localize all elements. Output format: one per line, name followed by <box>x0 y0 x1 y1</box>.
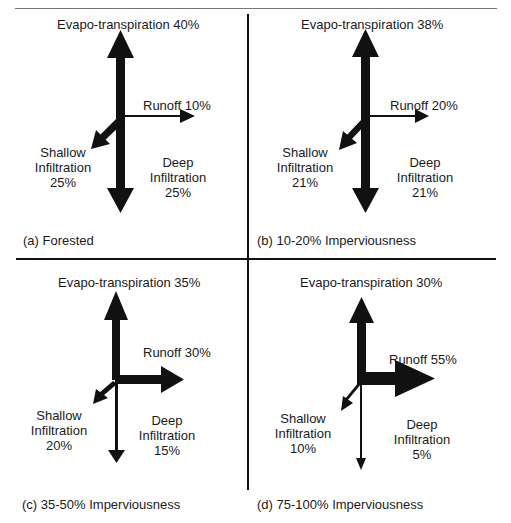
shallow-infiltration-label: ShallowInfiltration20% <box>29 408 89 453</box>
evapotranspiration-label: Evapo-transpiration 30% <box>300 275 442 290</box>
evapotranspiration-label: Evapo-transpiration 35% <box>58 275 200 290</box>
header-rule <box>15 8 497 9</box>
deep-infiltration-label: DeepInfiltration21% <box>395 155 455 200</box>
panel-caption: (c) 35-50% Imperviousness <box>22 497 180 512</box>
panel-75-100-imperviousness: Evapo-transpiration 30% Runoff 55% Shall… <box>255 260 510 515</box>
panel-35-50-imperviousness: Evapo-transpiration 35% Runoff 30% Shall… <box>0 260 255 515</box>
panel-10-20-imperviousness: Evapo-transpiration 38% Runoff 20% Shall… <box>255 13 510 268</box>
panel-forested: Evapo-transpiration 40% Runoff 10% Shall… <box>0 13 255 268</box>
panel-caption: (d) 75-100% Imperviousness <box>257 497 423 512</box>
deep-infiltration-label: DeepInfiltration15% <box>137 413 197 458</box>
water-balance-arrows <box>255 260 510 523</box>
runoff-label: Runoff 55% <box>389 352 457 367</box>
water-balance-arrows <box>0 13 255 268</box>
evapotranspiration-label: Evapo-transpiration 38% <box>301 17 443 32</box>
deep-infiltration-label: DeepInfiltration5% <box>392 417 452 462</box>
water-balance-arrows <box>255 13 510 268</box>
shallow-infiltration-label: ShallowInfiltration25% <box>33 145 93 190</box>
panel-caption: (b) 10-20% Imperviousness <box>257 233 416 248</box>
shallow-infiltration-label: ShallowInfiltration21% <box>275 145 335 190</box>
deep-infiltration-label: DeepInfiltration25% <box>148 155 208 200</box>
runoff-label: Runoff 20% <box>390 98 458 113</box>
runoff-label: Runoff 10% <box>143 98 211 113</box>
runoff-label: Runoff 30% <box>143 345 211 360</box>
panel-caption: (a) Forested <box>23 233 94 248</box>
evapotranspiration-label: Evapo-transpiration 40% <box>57 17 199 32</box>
water-balance-arrows <box>0 260 255 523</box>
shallow-infiltration-label: ShallowInfiltration10% <box>273 411 333 456</box>
